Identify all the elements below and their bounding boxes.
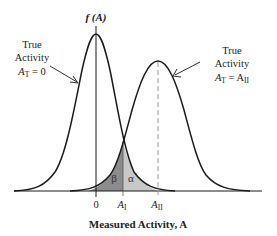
arrowhead-icon	[70, 76, 78, 83]
y-axis-label: f (A)	[85, 11, 106, 24]
null-annotation-line2: Activity	[15, 52, 50, 63]
alt-annotation-line3: AT = AII	[214, 72, 250, 85]
diagram-canvas: f (A) True Activity AT = 0 True Activity…	[0, 0, 277, 236]
tick-a-ii: AII	[150, 199, 163, 212]
null-annotation-line1: True	[22, 39, 42, 50]
alpha-label: α	[128, 172, 134, 184]
x-axis-title: Measured Activity, A	[89, 218, 188, 230]
tick-zero: 0	[93, 199, 98, 210]
tick-a-i: AI	[117, 199, 127, 212]
alt-annotation-line2: Activity	[215, 58, 250, 69]
null-annotation-arrow	[50, 66, 77, 82]
alt-annotation-line1: True	[222, 45, 242, 56]
alt-annotation-arrow	[175, 62, 200, 75]
beta-label: β	[111, 172, 117, 184]
null-annotation-line3: AT = 0	[17, 66, 45, 79]
hypothesis-test-diagram: f (A) True Activity AT = 0 True Activity…	[0, 0, 277, 236]
beta-region	[88, 142, 123, 191]
